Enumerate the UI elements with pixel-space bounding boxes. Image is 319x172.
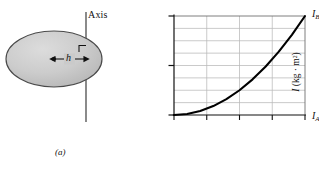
x-axis-ticks: [174, 115, 305, 120]
y-axis-label: I (kg · m²): [289, 26, 303, 118]
caption-panel-a: (a): [55, 147, 66, 157]
y-axis-ticks: [169, 16, 175, 115]
y-tick-label-ia: IA: [312, 110, 319, 123]
axis-text-label: Axis: [88, 9, 108, 20]
figure-container: h Axis (a): [0, 0, 319, 172]
y-axis-label-unit: (kg · m²): [291, 52, 301, 86]
center-of-mass-dot: [52, 57, 56, 61]
panel-a-diagram: h Axis (a): [0, 0, 150, 172]
y-axis-label-symbol: I: [291, 89, 301, 92]
panel-b-chart: I (kg · m²) IB IA 0 0.1 0.2 h (m) (b): [150, 0, 319, 172]
ia-subscript: A: [315, 115, 319, 123]
ellipse-axis-diagram: [0, 0, 150, 146]
distance-label-h: h: [66, 52, 71, 63]
ib-subscript: B: [315, 13, 319, 21]
y-tick-label-ib: IB: [312, 8, 319, 21]
